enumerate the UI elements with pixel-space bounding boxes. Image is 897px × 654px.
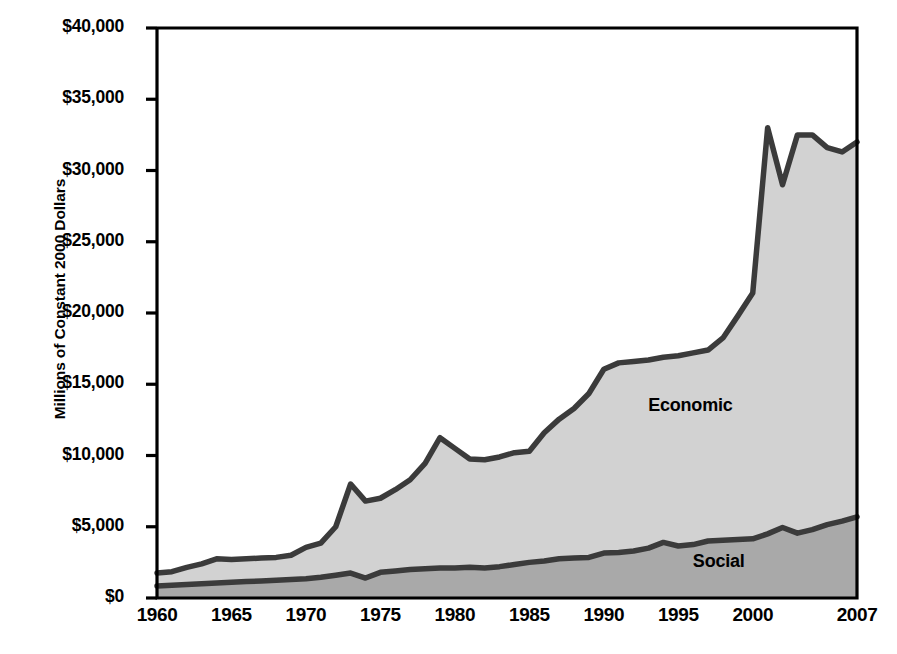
series-label-social: Social	[693, 551, 745, 572]
series-label-economic: Economic	[648, 395, 732, 416]
plot-area	[0, 0, 897, 654]
economic-area	[157, 128, 857, 586]
chart-container: Millions of Constant 2000 Dollars $0$5,0…	[0, 0, 897, 654]
